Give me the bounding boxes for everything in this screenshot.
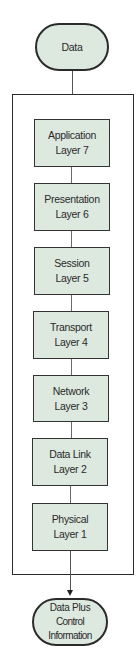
- layer-number: Layer 6: [56, 207, 89, 222]
- connector-5-4: [71, 294, 72, 311]
- layer-session: Session Layer 5: [34, 247, 110, 295]
- layer-number: Layer 1: [54, 527, 87, 542]
- layer-number: Layer 7: [56, 143, 89, 158]
- connector-6-5: [71, 230, 72, 247]
- layer-number: Layer 5: [56, 271, 89, 286]
- data-output-terminator: Data Plus Control Information: [32, 598, 108, 646]
- layer-name: Network: [53, 384, 89, 399]
- layer-name: Application: [48, 128, 96, 143]
- output-arrowhead-icon: [67, 590, 73, 596]
- layer-physical: Physical Layer 1: [32, 503, 108, 551]
- connector-4-3: [71, 358, 72, 375]
- output-label-line2: Control Information: [34, 615, 106, 643]
- layer-presentation: Presentation Layer 6: [34, 183, 110, 231]
- data-input-label: Data: [62, 40, 83, 55]
- layer-data-link: Data Link Layer 2: [32, 438, 108, 486]
- layer-name: Transport: [50, 320, 92, 335]
- layer-application: Application Layer 7: [34, 119, 110, 167]
- data-input-terminator: Data: [35, 23, 109, 71]
- layer-transport: Transport Layer 4: [33, 311, 109, 359]
- connector-3-2: [71, 421, 72, 438]
- layer-name: Physical: [52, 512, 89, 527]
- layer-number: Layer 3: [55, 399, 88, 414]
- layer-name: Session: [54, 256, 89, 271]
- layer-name: Presentation: [44, 192, 99, 207]
- output-arrow-line: [70, 551, 71, 592]
- layer-name: Data Link: [49, 447, 91, 462]
- connector-2-1: [70, 485, 71, 503]
- layer-number: Layer 2: [54, 462, 87, 477]
- layer-number: Layer 4: [55, 335, 88, 350]
- layer-network: Network Layer 3: [33, 375, 109, 422]
- connector-7-6: [71, 166, 72, 183]
- output-label-line1: Data Plus: [50, 601, 91, 615]
